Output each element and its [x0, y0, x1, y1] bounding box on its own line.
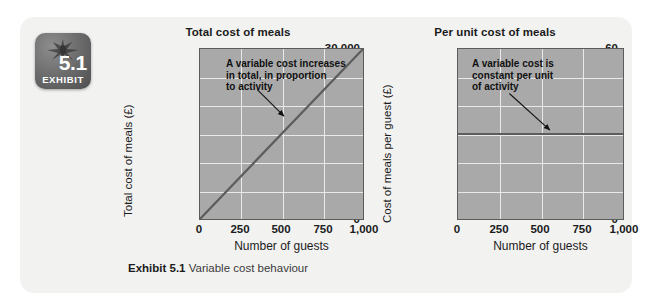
exhibit-badge-number: 5.1: [35, 52, 87, 73]
annotation-line: A variable cost is: [472, 58, 554, 70]
exhibit-panel: 5.1 EXHIBIT Total cost of meals Total co…: [20, 17, 632, 293]
exhibit-caption: Exhibit 5.1 Variable cost behaviour: [128, 262, 308, 274]
caption-text: Variable cost behaviour: [186, 262, 309, 274]
chart-title: Total cost of meals: [138, 26, 338, 38]
x-tick-label: 1,000: [599, 223, 649, 235]
annotation-line: in total, in proportion: [226, 70, 346, 82]
annotation-line: A variable cost increases: [226, 58, 346, 70]
exhibit-badge-word: EXHIBIT: [35, 75, 91, 85]
chart-annotation: A variable cost increases in total, in p…: [226, 58, 346, 93]
annotation-line: constant per unit: [472, 70, 554, 82]
plot-area: A variable cost is constant per unit of …: [457, 48, 624, 220]
exhibit-badge: 5.1 EXHIBIT: [35, 33, 91, 89]
y-axis-label: Total cost of meals (£): [122, 105, 134, 217]
chart-annotation: A variable cost is constant per unit of …: [472, 58, 554, 93]
x-axis-label: Number of guests: [457, 239, 624, 253]
x-axis-label: Number of guests: [199, 239, 364, 253]
caption-label: Exhibit 5.1: [128, 262, 186, 274]
x-tick-label: 1,000: [339, 223, 389, 235]
annotation-line: to activity: [226, 81, 346, 93]
plot-area: A variable cost increases in total, in p…: [199, 48, 364, 220]
y-axis-label: Cost of meals per guest (£): [381, 84, 393, 223]
annotation-line: of activity: [472, 81, 554, 93]
chart-title: Per unit cost of meals: [390, 26, 600, 38]
